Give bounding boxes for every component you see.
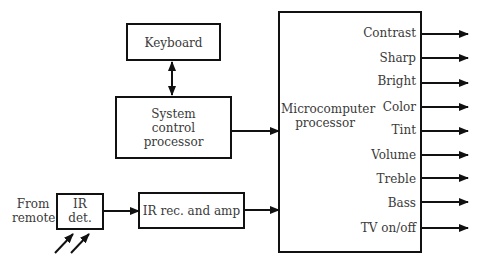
output-label-bright: Bright (330, 74, 416, 88)
output-label-tint: Tint (330, 123, 416, 137)
ir-det-label-2: det. (57, 211, 103, 225)
system-control-label-1: System (116, 107, 231, 121)
output-label-bass: Bass (330, 196, 416, 210)
output-label-sharp: Sharp (330, 51, 416, 65)
system-control-label-2: control (116, 121, 231, 135)
from-remote-label-2: remote (12, 211, 54, 225)
system-control-label-3: processor (116, 135, 231, 149)
output-label-contrast: Contrast (330, 26, 416, 40)
ir-det-label-1: IR (57, 197, 103, 211)
from-remote-label-1: From (12, 197, 54, 211)
output-label-volume: Volume (330, 148, 416, 162)
ir-rec-label: IR rec. and amp (139, 204, 244, 218)
ir-ray-arrow (71, 234, 89, 253)
output-label-color: Color (330, 100, 416, 114)
output-label-tv-onoff: TV on/off (330, 221, 416, 235)
ir-ray-arrow (55, 234, 73, 253)
output-label-treble: Treble (330, 172, 416, 186)
keyboard-label: Keyboard (127, 36, 220, 50)
